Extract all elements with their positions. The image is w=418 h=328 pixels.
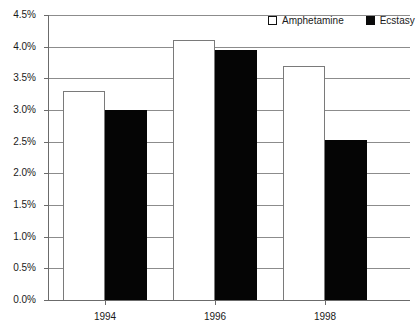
y-tick-label: 1.0% (0, 232, 36, 242)
bar-ecstasy-1998 (325, 140, 367, 300)
y-tick-label: 2.5% (0, 137, 36, 147)
x-tick-label-1994: 1994 (65, 311, 145, 322)
plot-area: 0.0%0.5%1.0%1.5%2.0%2.5%3.0%3.5%4.0%4.5%… (48, 15, 410, 300)
y-tick-label: 2.0% (0, 168, 36, 178)
x-tick-label-1996: 1996 (175, 311, 255, 322)
bar-amphetamine-1994 (63, 91, 105, 300)
y-tick-label: 1.5% (0, 200, 36, 210)
x-axis-line (48, 300, 410, 301)
x-tick-label-1998: 1998 (285, 311, 365, 322)
y-tick-label: 0.5% (0, 263, 36, 273)
y-tick-label: 3.0% (0, 105, 36, 115)
x-tick-mark (105, 300, 106, 305)
bar-ecstasy-1996 (215, 50, 257, 300)
y-axis-line (48, 15, 49, 300)
bar-amphetamine-1996 (173, 40, 215, 300)
bar-chart: Amphetamine Ecstasy 0.0%0.5%1.0%1.5%2.0%… (0, 0, 418, 328)
y-tick-label: 3.5% (0, 73, 36, 83)
bar-ecstasy-1994 (105, 110, 147, 300)
y-tick-label: 4.5% (0, 10, 36, 20)
x-tick-mark (215, 300, 216, 305)
y-tick-label: 0.0% (0, 295, 36, 305)
bars (48, 15, 410, 300)
y-tick-label: 4.0% (0, 42, 36, 52)
bar-amphetamine-1998 (283, 66, 325, 300)
x-tick-mark (325, 300, 326, 305)
